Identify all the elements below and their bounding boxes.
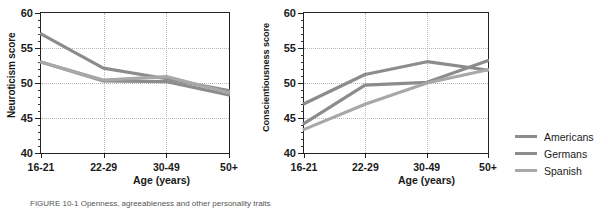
x-axis-label: Age (years) xyxy=(0,174,289,186)
x-axis-tick-label: 22-29 xyxy=(90,161,117,173)
x-axis-tick-label: 16-21 xyxy=(28,161,55,173)
x-axis-tick-label: 16-21 xyxy=(291,161,318,173)
y-axis-tick-label: 45 xyxy=(284,112,296,124)
legend-label: Germans xyxy=(544,148,587,160)
legend-item-germans: Germans xyxy=(515,145,607,162)
y-axis-label: Neuroticism score xyxy=(2,0,20,150)
x-axis-tick-label: 30-49 xyxy=(153,161,180,173)
x-axis-tick-label: 30-49 xyxy=(413,161,440,173)
y-axis-tick-label: 60 xyxy=(21,7,33,19)
figure-two-line-charts: Neuroticism score 404550556016-2122-2930… xyxy=(0,0,608,211)
x-axis-tick-label: 22-29 xyxy=(352,161,379,173)
legend-swatch xyxy=(515,135,537,138)
series-lines xyxy=(40,12,230,154)
y-axis-tick-label: 60 xyxy=(284,7,296,19)
chart-panel-neuroticism: Neuroticism score 404550556016-2122-2930… xyxy=(0,0,255,190)
legend-item-americans: Americans xyxy=(515,128,607,145)
y-axis-tick-label: 55 xyxy=(284,42,296,54)
legend-item-spanish: Spanish xyxy=(515,162,607,179)
legend-label: Spanish xyxy=(544,165,582,177)
chart-panel-conscientiousness: Conscientiousness score 404550556016-212… xyxy=(255,0,510,190)
figure-caption: FIGURE 10-1 Openness, agreeableness and … xyxy=(30,199,590,210)
series-line-spanish xyxy=(303,70,489,130)
y-axis-label: Conscientiousness score xyxy=(257,0,275,156)
y-axis-tick-label: 50 xyxy=(284,77,296,89)
x-axis-tick-label: 50+ xyxy=(479,161,497,173)
legend-swatch xyxy=(515,169,537,172)
y-axis-tick-label: 50 xyxy=(21,77,33,89)
x-axis-tick-label: 50+ xyxy=(220,161,238,173)
series-lines xyxy=(303,12,489,154)
x-axis-label: Age (years) xyxy=(255,174,554,186)
legend-swatch xyxy=(515,152,537,155)
y-axis-tick-label: 55 xyxy=(21,42,33,54)
y-axis-tick-label: 45 xyxy=(21,112,33,124)
y-axis-tick-label: 40 xyxy=(284,147,296,159)
plot-area-conscientiousness: 404550556016-2122-2930-4950+ xyxy=(303,12,489,154)
plot-area-neuroticism: 404550556016-2122-2930-4950+ xyxy=(40,12,230,154)
y-axis-tick-label: 40 xyxy=(21,147,33,159)
legend-label: Americans xyxy=(544,131,594,143)
legend: AmericansGermansSpanish xyxy=(515,128,607,179)
